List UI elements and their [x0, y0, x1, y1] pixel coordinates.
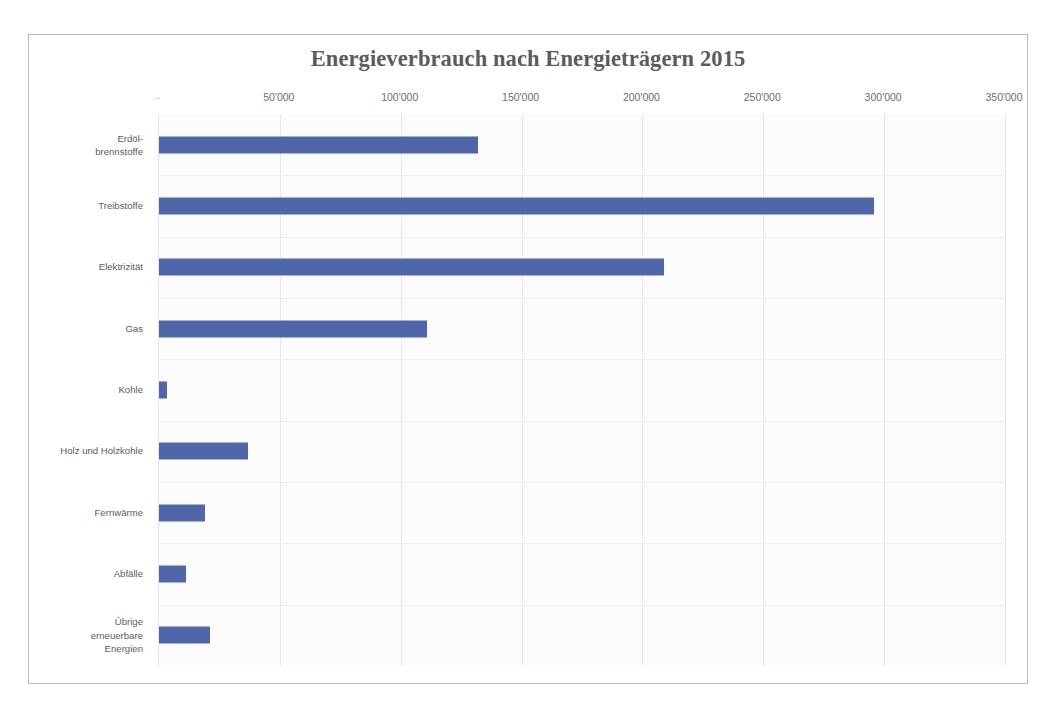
- y-axis-category-label: Kohle: [0, 383, 143, 397]
- gridline-horizontal: [159, 605, 1004, 606]
- scanned-page-text-fragment: [66, 0, 966, 7]
- y-axis-category-label: Fernwärme: [0, 506, 143, 520]
- bar[interactable]: [159, 198, 874, 215]
- chart-title: Energieverbrauch nach Energieträgern 201…: [29, 46, 1027, 72]
- gridline-horizontal: [159, 421, 1004, 422]
- x-axis-tick-label: 200'000: [623, 91, 660, 103]
- gridline-vertical: [1005, 114, 1006, 666]
- bar[interactable]: [159, 136, 478, 153]
- x-axis-tick-label: -: [156, 91, 160, 103]
- y-axis-category-label: ÜbrigeerneuerbareEnergien: [0, 615, 143, 656]
- bar[interactable]: [159, 259, 664, 276]
- gridline-horizontal: [159, 237, 1004, 238]
- plot-area: [158, 114, 1004, 666]
- x-axis-tick-label: 50'000: [263, 91, 294, 103]
- gridline-horizontal: [159, 543, 1004, 544]
- bar[interactable]: [159, 566, 186, 583]
- gridline-vertical: [884, 114, 885, 666]
- chart-frame: Energieverbrauch nach Energieträgern 201…: [28, 34, 1028, 684]
- y-axis-category-label: Abfälle: [0, 567, 143, 581]
- y-axis-category-label: Gas: [0, 322, 143, 336]
- bar[interactable]: [159, 627, 210, 644]
- x-axis-tick-label: 350'000: [985, 91, 1022, 103]
- bar[interactable]: [159, 504, 205, 521]
- y-axis-category-label: Holz und Holzkohle: [0, 445, 143, 459]
- bar[interactable]: [159, 382, 167, 399]
- y-axis-category-label: Erdöl-brennstoffe: [0, 131, 143, 158]
- y-axis-category-label: Treibstoffe: [0, 199, 143, 213]
- bar[interactable]: [159, 320, 427, 337]
- x-axis-tick-label: 250'000: [744, 91, 781, 103]
- y-axis-category-label: Elektrizität: [0, 261, 143, 275]
- x-axis-tick-label: 100'000: [381, 91, 418, 103]
- gridline-horizontal: [159, 175, 1004, 176]
- gridline-horizontal: [159, 359, 1004, 360]
- x-axis-tick-label: 300'000: [865, 91, 902, 103]
- bar[interactable]: [159, 443, 248, 460]
- x-axis-tick-label: 150'000: [502, 91, 539, 103]
- gridline-horizontal: [159, 482, 1004, 483]
- gridline-horizontal: [159, 298, 1004, 299]
